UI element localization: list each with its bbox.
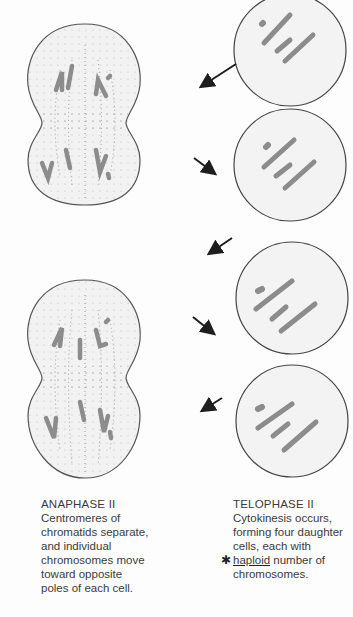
daughter-cell-2 [234, 109, 346, 221]
caption-title: ANAPHASE II [41, 497, 171, 511]
caption-line: Centromeres of [41, 511, 171, 525]
caption-line: Cytokinesis occurs, [233, 511, 353, 525]
anaphase-ii-cell-top [28, 24, 141, 205]
daughter-cell-4 [236, 365, 348, 477]
daughter-cell-1 [234, 0, 346, 106]
arrow-icon [193, 317, 213, 333]
meiosis-ii-diagram [0, 0, 353, 480]
asterisk-annotation-icon: ✱ [221, 553, 231, 567]
arrow-icon [210, 238, 232, 253]
caption-line: cells, each with [233, 539, 353, 553]
arrow-icon [194, 158, 214, 173]
arrow-icon [202, 64, 236, 86]
caption-line: poles of each cell. [41, 581, 171, 595]
caption-title: TELOPHASE II [233, 497, 353, 511]
daughter-cell-3 [236, 242, 348, 354]
highlighted-word: haploid [233, 554, 270, 566]
caption-anaphase-ii: ANAPHASE II Centromeres of chromatids se… [41, 497, 171, 595]
arrows [193, 64, 236, 410]
arrow-icon [203, 398, 222, 410]
caption-telophase-ii: TELOPHASE II Cytokinesis occurs, forming… [233, 497, 353, 581]
caption-line: chromatids separate, [41, 525, 171, 539]
caption-line: and individual [41, 539, 171, 553]
caption-line-annotated: ✱haploid number of [233, 553, 353, 567]
caption-text: number of [270, 554, 325, 566]
caption-line: toward opposite [41, 567, 171, 581]
caption-line: chromosomes move [41, 553, 171, 567]
anaphase-ii-cell-bottom [28, 280, 141, 478]
caption-line: chromosomes. [233, 567, 353, 581]
caption-line: forming four daughter [233, 525, 353, 539]
